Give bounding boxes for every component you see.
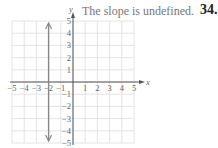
y-tick-label: 5 (67, 16, 71, 26)
y-tick-label: 3 (67, 40, 71, 50)
x-tick-label: 2 (95, 83, 99, 93)
x-axis-arrow-icon (139, 80, 145, 84)
x-tick-label: 5 (132, 83, 136, 93)
x-axis-label: x (145, 77, 150, 87)
y-tick-label: 1 (67, 65, 71, 75)
y-tick-label: 2 (67, 53, 71, 63)
y-tick-label: −4 (62, 126, 72, 136)
x-tick-label: 4 (120, 83, 125, 93)
x-tick-label: −4 (20, 83, 30, 93)
coordinate-plane: xy−5−4−3−2−112345−5−4−3−2−112345 (0, 0, 218, 148)
x-tick-label: 3 (107, 83, 111, 93)
y-tick-label: −3 (62, 114, 71, 124)
x-tick-label: 1 (83, 83, 87, 93)
x-tick-label: −5 (7, 83, 16, 93)
x-tick-label: −3 (32, 83, 41, 93)
y-tick-label: −2 (62, 101, 71, 111)
y-axis-label: y (68, 4, 73, 14)
y-tick-label: −1 (62, 89, 71, 99)
y-tick-label: −5 (62, 138, 71, 148)
